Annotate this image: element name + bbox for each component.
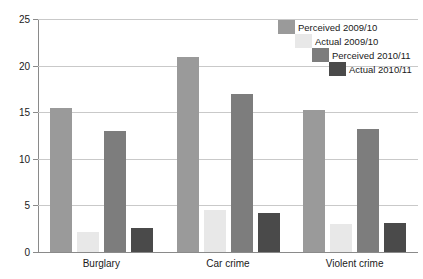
y-tick-label: 15	[0, 107, 30, 118]
bar	[131, 228, 153, 252]
chart-legend: Perceived 2009/10Actual 2009/10Perceived…	[278, 20, 418, 80]
legend-item: Actual 2009/10	[295, 34, 378, 48]
y-tick-label: 5	[0, 200, 30, 211]
legend-label: Perceived 2010/11	[332, 50, 411, 61]
category-label: Violent crime	[326, 258, 384, 269]
bar	[77, 232, 99, 253]
legend-label: Actual 2010/11	[349, 64, 412, 75]
legend-item: Perceived 2010/11	[312, 48, 411, 62]
legend-swatch	[329, 62, 346, 76]
bar	[303, 110, 325, 252]
bar	[177, 57, 199, 252]
bar-group	[177, 19, 280, 252]
bar-chart: 0510152025 BurglaryCar crimeViolent crim…	[0, 0, 423, 279]
legend-item: Perceived 2009/10	[278, 20, 377, 34]
y-tick-mark	[33, 252, 38, 253]
legend-swatch	[278, 20, 295, 34]
legend-label: Perceived 2009/10	[298, 22, 377, 33]
y-tick-mark	[33, 159, 38, 160]
bar	[357, 129, 379, 252]
category-label: Burglary	[83, 258, 120, 269]
bar-group	[50, 19, 153, 252]
y-tick-label: 20	[0, 60, 30, 71]
y-tick-label: 25	[0, 14, 30, 25]
bar	[384, 223, 406, 252]
legend-label: Actual 2009/10	[315, 36, 378, 47]
bar	[330, 224, 352, 252]
legend-swatch	[312, 48, 329, 62]
bar	[104, 131, 126, 252]
y-tick-mark	[33, 19, 38, 20]
y-tick-label: 10	[0, 153, 30, 164]
bar	[50, 108, 72, 252]
bar	[258, 213, 280, 252]
category-label: Car crime	[206, 258, 249, 269]
legend-item: Actual 2010/11	[329, 62, 412, 76]
y-tick-label: 0	[0, 247, 30, 258]
y-tick-mark	[33, 112, 38, 113]
y-tick-mark	[33, 66, 38, 67]
bar	[231, 94, 253, 252]
y-tick-mark	[33, 205, 38, 206]
bar	[204, 210, 226, 252]
x-axis-line	[38, 252, 418, 253]
legend-swatch	[295, 34, 312, 48]
